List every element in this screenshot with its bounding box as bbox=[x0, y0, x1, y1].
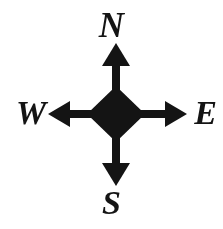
compass-label-west: W bbox=[16, 96, 46, 130]
compass-label-south: S bbox=[0, 186, 223, 220]
compass-label-east: E bbox=[194, 96, 217, 130]
compass-rose-figure: N E S W bbox=[0, 0, 223, 229]
center-diamond bbox=[87, 86, 145, 142]
compass-label-north: N bbox=[0, 8, 223, 43]
